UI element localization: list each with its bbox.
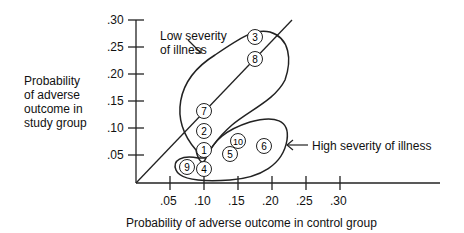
svg-text:2: 2	[201, 126, 207, 137]
svg-text:1: 1	[201, 145, 207, 156]
point-9: 9	[180, 160, 195, 175]
x-axis-label: Probability of adverse outcome in contro…	[126, 216, 377, 230]
point-8: 8	[248, 52, 263, 67]
svg-text:3: 3	[252, 32, 258, 43]
point-5: 5	[223, 147, 238, 162]
point-4: 4	[197, 162, 212, 177]
svg-text:9: 9	[184, 162, 190, 173]
x-tick-label: .30	[330, 194, 347, 208]
x-tick-label: .05	[160, 194, 177, 208]
point-1: 1	[197, 143, 212, 158]
low-severity-annotation: Low severity of illness	[160, 29, 227, 57]
x-tick-label: .15	[228, 194, 245, 208]
svg-text:6: 6	[261, 141, 267, 152]
svg-text:5: 5	[227, 149, 233, 160]
y-tick-label: .05	[107, 148, 124, 162]
y-tick-label: .25	[107, 40, 124, 54]
point-6: 6	[257, 139, 272, 154]
y-tick-label: .10	[107, 121, 124, 135]
y-tick-label: .15	[107, 94, 124, 108]
x-tick-label: .20	[262, 194, 279, 208]
svg-text:10: 10	[233, 137, 243, 147]
svg-text:7: 7	[201, 106, 207, 117]
svg-text:4: 4	[201, 164, 207, 175]
high-severity-annotation: High severity of illness	[312, 139, 431, 153]
point-10: 10	[231, 134, 246, 149]
point-2: 2	[197, 124, 212, 139]
svg-text:8: 8	[252, 54, 258, 65]
x-tick-label: .10	[194, 194, 211, 208]
x-tick-label: .25	[296, 194, 313, 208]
point-3: 3	[248, 30, 263, 45]
y-axis-label: Probability of adverse outcome in study …	[24, 74, 87, 130]
y-tick-label: .30	[107, 13, 124, 27]
point-7: 7	[197, 104, 212, 119]
y-tick-label: .20	[107, 67, 124, 81]
